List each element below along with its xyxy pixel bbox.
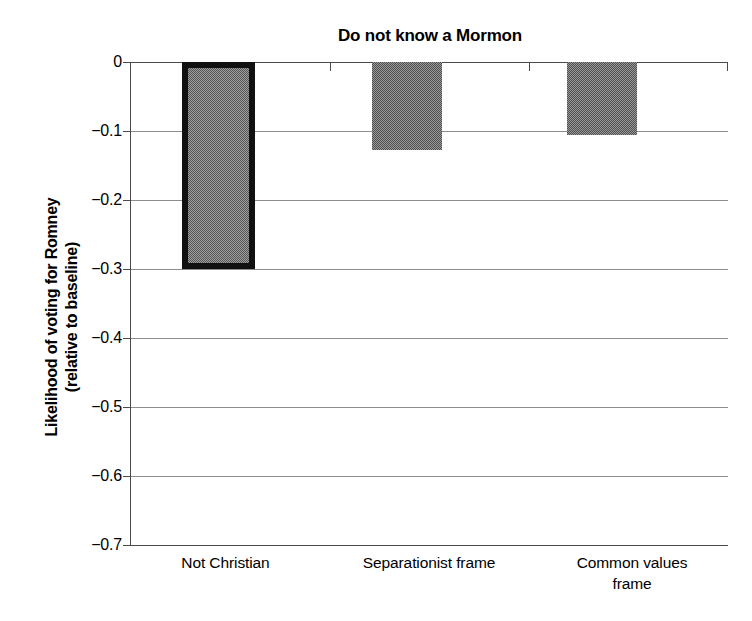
y-tick-label-6: −0.6 [66,468,122,484]
gridline-0.3 [131,269,728,270]
x-label-not-christian: Not Christian [131,552,320,573]
gridline-0.6 [131,476,728,477]
chart-figure: Do not know a Mormon Likelihood of votin… [0,0,752,621]
x-label-separationist-frame-line-1: Separationist frame [331,552,527,573]
y-tick-label-0: 0 [66,54,122,70]
gridline-0.7 [131,545,728,546]
gridline-0.4 [131,338,728,339]
y-tick-label-1: −0.1 [66,123,122,139]
y-tick-label-5: −0.5 [66,399,122,415]
gridline-0.5 [131,407,728,408]
plot-area [131,62,728,545]
x-label-common-values-frame: Common values frame [536,552,728,594]
y-tick-label-7: −0.7 [66,537,122,553]
x-label-common-values-frame-line-2: frame [536,573,728,594]
bar-separationist-frame[interactable] [372,62,442,150]
x-label-not-christian-line-1: Not Christian [131,552,320,573]
y-tick-label-2: −0.2 [66,192,122,208]
y-axis-tick-4 [123,338,131,339]
y-axis-tick-0 [123,62,131,63]
y-tick-label-3: −0.3 [66,261,122,277]
y-axis-tick-5 [123,407,131,408]
y-axis-tick-3 [123,269,131,270]
chart-title: Do not know a Mormon [130,26,730,46]
y-tick-label-4: −0.4 [66,330,122,346]
y-axis-tick-2 [123,200,131,201]
x-label-separationist-frame: Separationist frame [331,552,527,573]
bar-not-christian[interactable] [182,62,255,269]
bar-common-values-frame[interactable] [567,62,637,135]
y-axis-tick-1 [123,131,131,132]
y-axis-tick-labels: 0 −0.1 −0.2 −0.3 −0.4 −0.5 −0.6 −0.7 [56,0,122,621]
y-axis-tick-7 [123,545,131,546]
y-axis-tick-6 [123,476,131,477]
x-axis-category-labels: Not Christian Separationist frame Common… [131,552,728,612]
x-label-common-values-frame-line-1: Common values [536,552,728,573]
